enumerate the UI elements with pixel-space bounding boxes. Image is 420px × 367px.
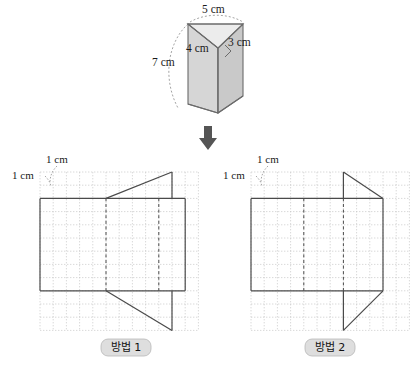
net-1-cm-leader-horizontal [50, 166, 57, 183]
top-edge-leader-line [190, 15, 243, 22]
net-1: 1 cm 1 cm 방법 1 [12, 153, 198, 356]
net-1-cm-label-vertical: 1 cm [12, 169, 34, 181]
net-2-bottom-triangle-hyp [343, 291, 383, 331]
net-1-caption-text: 방법 1 [111, 341, 142, 354]
net-1-cm-label-horizontal: 1 cm [46, 153, 68, 165]
net-2-cm-leader-horizontal [261, 166, 268, 183]
net-2-caption-text: 방법 2 [315, 341, 346, 354]
prism-dim-left-base: 4 cm [186, 42, 209, 54]
net-1-grid [40, 172, 198, 330]
down-arrow-glyph [199, 126, 217, 150]
net-2: 1 cm 1 cm 방법 2 [223, 153, 409, 356]
prism-dim-right-base: 3 cm [228, 36, 251, 48]
figure-root: 5 cm 4 cm 3 cm 7 cm [0, 0, 420, 367]
net-1-bottom-triangle-hyp [106, 291, 172, 331]
net-2-cm-label-vertical: 1 cm [223, 169, 245, 181]
prism-dim-height: 7 cm [152, 56, 175, 68]
geometry-figure: 5 cm 4 cm 3 cm 7 cm [0, 0, 420, 367]
net-2-cm-label-horizontal: 1 cm [257, 153, 279, 165]
net-2-grid [251, 172, 409, 330]
net-1-caption: 방법 1 [101, 339, 151, 356]
net-2-caption: 방법 2 [305, 339, 355, 356]
down-arrow [199, 126, 217, 150]
prism-dim-top: 5 cm [202, 3, 225, 15]
triangular-prism: 5 cm 4 cm 3 cm 7 cm [152, 3, 251, 113]
